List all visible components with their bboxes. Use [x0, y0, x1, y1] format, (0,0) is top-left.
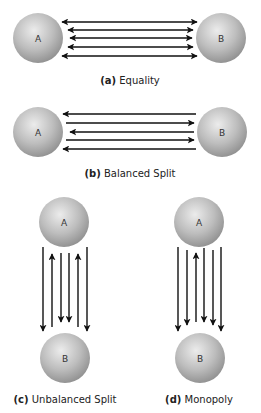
- caption-tag: (a): [100, 75, 116, 86]
- caption-d: (d) Monopoly: [165, 394, 233, 405]
- panel-c: AB: [39, 197, 90, 383]
- caption-a: (a) Equality: [100, 75, 160, 86]
- node-A: A: [13, 13, 63, 63]
- node-B: B: [197, 107, 247, 157]
- caption-title: Equality: [116, 75, 160, 86]
- node-label: A: [196, 218, 203, 228]
- diagram-canvas: ABABABAB: [0, 0, 261, 413]
- node-A: A: [174, 197, 224, 247]
- node-B: B: [196, 13, 246, 63]
- caption-title: Monopoly: [181, 394, 233, 405]
- caption-title: Balanced Split: [101, 168, 176, 179]
- node-B: B: [175, 333, 225, 383]
- node-label: B: [197, 354, 203, 364]
- caption-c: (c) Unbalanced Split: [14, 394, 117, 405]
- panel-d: AB: [174, 197, 225, 383]
- node-label: A: [35, 34, 42, 44]
- node-label: A: [61, 218, 68, 228]
- caption-tag: (b): [84, 168, 100, 179]
- caption-b: (b) Balanced Split: [84, 168, 175, 179]
- node-A: A: [13, 107, 63, 157]
- node-B: B: [40, 333, 90, 383]
- caption-title: Unbalanced Split: [29, 394, 117, 405]
- node-A: A: [39, 197, 89, 247]
- node-label: B: [62, 354, 68, 364]
- node-label: B: [218, 34, 224, 44]
- node-label: B: [219, 128, 225, 138]
- panel-a: AB: [13, 13, 246, 63]
- caption-tag: (c): [14, 394, 29, 405]
- panel-b: AB: [13, 107, 247, 157]
- node-label: A: [35, 128, 42, 138]
- caption-tag: (d): [165, 394, 181, 405]
